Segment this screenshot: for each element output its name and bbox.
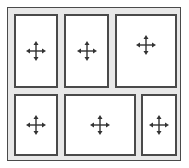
- panel-bottom-left[interactable]: [14, 94, 58, 156]
- panel-top-middle[interactable]: [64, 14, 109, 88]
- panel-bottom-right[interactable]: [141, 94, 177, 156]
- panel-bottom-middle[interactable]: [64, 94, 136, 156]
- move-icon[interactable]: [77, 41, 97, 61]
- move-icon[interactable]: [149, 115, 169, 135]
- move-icon[interactable]: [26, 115, 46, 135]
- move-icon[interactable]: [136, 35, 156, 55]
- panel-top-left[interactable]: [14, 14, 58, 88]
- move-icon[interactable]: [90, 115, 110, 135]
- panel-top-right[interactable]: [115, 14, 177, 88]
- move-icon[interactable]: [26, 41, 46, 61]
